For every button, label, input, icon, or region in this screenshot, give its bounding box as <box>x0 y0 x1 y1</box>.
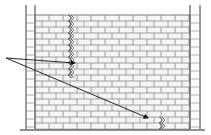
wall-drawing <box>0 0 211 135</box>
brick-wall-diagram <box>0 0 211 135</box>
brick-pattern <box>35 15 190 129</box>
